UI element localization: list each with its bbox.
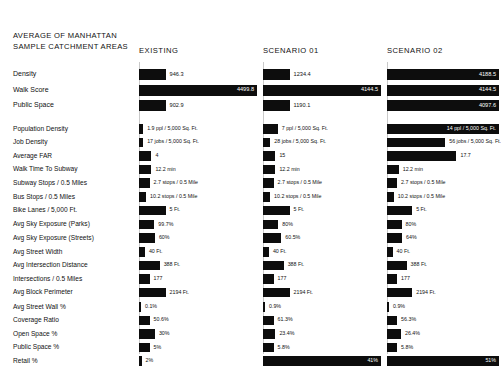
row-label: Avg Sky Exposure (Streets) xyxy=(13,233,94,243)
bar-cell: 12.2 min xyxy=(139,163,257,176)
table-row: Intersections / 0.5 Miles177177177 xyxy=(0,273,502,286)
bar-value: 2.7 stops / 0.5 Mile xyxy=(401,179,445,186)
bar-value: 0.1% xyxy=(145,303,157,310)
bar-value: 388 Ft. xyxy=(288,261,305,268)
bar-value: 177 xyxy=(278,275,287,282)
bar-cell: 177 xyxy=(387,273,499,286)
row-label: Avg Sky Exposure (Parks) xyxy=(13,219,90,229)
bar xyxy=(263,124,278,134)
bar-cell: 12.2 min xyxy=(263,163,381,176)
row-label: Public Space xyxy=(13,100,54,110)
bar-value: 2.7 stops / 0.5 Mile xyxy=(278,179,322,186)
bar-value: 4188.5 xyxy=(479,71,496,78)
bar-value: 388 Ft. xyxy=(411,261,428,268)
bar-value: 902.9 xyxy=(170,102,184,109)
table-row: Public Space902.91190.14097.6 xyxy=(0,99,502,112)
bar-cell: 2.7 stops / 0.5 Mile xyxy=(139,177,257,190)
bar-value: 61.3% xyxy=(278,316,293,323)
bar-cell: 388 Ft. xyxy=(263,259,381,272)
bar-value: 5.8% xyxy=(278,344,290,351)
table-row: Average FAR41517.7 xyxy=(0,150,502,163)
bar-value: 51% xyxy=(485,357,496,364)
bar-value: 1.9 ppl / 5,000 Sq. Ft. xyxy=(147,125,198,132)
bar-cell: 2% xyxy=(139,355,257,368)
bar-value: 10.2 stops / 0.5 Mile xyxy=(398,193,445,200)
row-label: Avg Street Width xyxy=(13,247,62,257)
row-label: Average FAR xyxy=(13,151,52,161)
bar xyxy=(139,100,166,111)
bar xyxy=(263,206,290,216)
bar-cell: 28 jobs / 5,000 Sq. Ft. xyxy=(263,136,381,149)
bar-value: 17.7 xyxy=(460,152,470,159)
bar-cell: 51% xyxy=(387,355,499,368)
bar xyxy=(387,316,397,326)
bar-cell: 5.8% xyxy=(387,341,499,354)
bar xyxy=(263,274,274,284)
bar-cell: 12.2 min xyxy=(387,163,499,176)
table-row: Avg Intersection Distance388 Ft.388 Ft.3… xyxy=(0,259,502,272)
bar xyxy=(139,165,151,175)
bar-value: 12.2 min xyxy=(403,166,423,173)
bar-value: 4 xyxy=(155,152,158,159)
bar-value: 80% xyxy=(406,221,417,228)
bar-cell: 902.9 xyxy=(139,99,257,112)
bar-cell: 5 Ft. xyxy=(263,204,381,217)
bar-cell: 7 ppl / 5,000 Sq. Ft. xyxy=(263,123,381,136)
table-row: Bus Stops / 0.5 Miles10.2 stops / 0.5 Mi… xyxy=(0,191,502,204)
bar xyxy=(139,192,146,202)
bar-cell: 40 Ft. xyxy=(263,246,381,259)
bar-cell: 1190.1 xyxy=(263,99,381,112)
table-row: Avg Sky Exposure (Streets)60%60.5%64% xyxy=(0,232,502,245)
bar-cell: 10.2 stops / 0.5 Mile xyxy=(139,191,257,204)
bar xyxy=(387,329,401,339)
bar-cell: 15 xyxy=(263,150,381,163)
bar-cell: 2194 Ft. xyxy=(387,286,499,299)
bar-value: 177 xyxy=(401,275,410,282)
bar-cell: 26.4% xyxy=(387,328,499,341)
row-label: Population Density xyxy=(13,124,68,134)
bar xyxy=(263,178,274,188)
bar-cell: 10.2 stops / 0.5 Mile xyxy=(263,191,381,204)
bar-cell: 61.3% xyxy=(263,314,381,327)
bar-value: 4144.5 xyxy=(479,86,496,93)
bar-cell: 0.9% xyxy=(387,301,499,314)
bar-cell: 4499.8 xyxy=(139,84,257,97)
bar-cell: 946.3 xyxy=(139,68,257,81)
bar xyxy=(263,100,290,111)
row-label: Subway Stops / 0.5 Miles xyxy=(13,178,87,188)
bar xyxy=(387,302,389,312)
bar-value: 2% xyxy=(146,357,154,364)
bar xyxy=(139,206,166,216)
bar xyxy=(387,192,394,202)
bar-cell: 80% xyxy=(387,218,499,231)
bar-cell: 177 xyxy=(139,273,257,286)
bar xyxy=(387,138,445,148)
table-row: Walk Score4499.84144.54144.5 xyxy=(0,84,502,97)
row-label: Retail % xyxy=(13,356,38,366)
bar-cell: 2194 Ft. xyxy=(263,286,381,299)
bar-value: 56.3% xyxy=(401,316,416,323)
bar xyxy=(263,69,290,80)
bar-value: 2.7 stops / 0.5 Mile xyxy=(154,179,198,186)
bar xyxy=(263,138,270,148)
bar-value: 80% xyxy=(282,221,293,228)
table-row: Avg Sky Exposure (Parks)99.7%80%80% xyxy=(0,218,502,231)
bar xyxy=(387,165,399,175)
table-row: Density946.31234.44188.5 xyxy=(0,68,502,81)
row-label: Intersections / 0.5 Miles xyxy=(13,274,82,284)
bar xyxy=(139,288,166,298)
bar-cell: 4144.5 xyxy=(387,84,499,97)
bar-value: 28 jobs / 5,000 Sq. Ft. xyxy=(274,138,326,145)
bar-value: 15 xyxy=(279,152,285,159)
bar xyxy=(139,316,150,326)
bar-value: 50.6% xyxy=(154,316,169,323)
bar xyxy=(263,192,270,202)
bar-cell: 388 Ft. xyxy=(139,259,257,272)
bar-cell: 50.6% xyxy=(139,314,257,327)
bar-value: 26.4% xyxy=(405,330,420,337)
table-row: Open Space %30%23.4%26.4% xyxy=(0,328,502,341)
bar-value: 10.2 stops / 0.5 Mile xyxy=(274,193,321,200)
bar-value: 30% xyxy=(159,330,170,337)
bar xyxy=(139,178,150,188)
bar-value: 0.9% xyxy=(393,303,405,310)
